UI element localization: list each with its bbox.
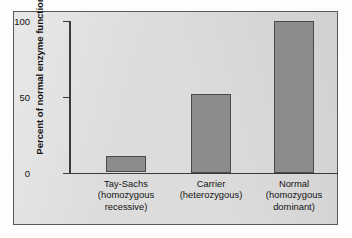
x-label-normal-line1: Normal xyxy=(238,178,350,189)
y-tick-label-0: 0 xyxy=(0,168,30,179)
bar-normal xyxy=(274,21,314,173)
x-label-normal-line3: dominant) xyxy=(238,201,350,212)
x-label-normal: Normal (homozygous dominant) xyxy=(238,178,350,212)
chart-panel: Percent of normal enzyme function 100 50… xyxy=(13,11,338,225)
bar-tay-sachs xyxy=(106,156,146,173)
figure: Percent of normal enzyme function 100 50… xyxy=(0,0,352,238)
x-label-normal-line2: (homozygous xyxy=(238,189,350,200)
y-tick-mark-50 xyxy=(63,97,70,99)
y-tick-label-100: 100 xyxy=(0,16,30,27)
x-axis-line xyxy=(69,173,338,175)
y-tick-mark-100 xyxy=(63,21,70,23)
y-tick-mark-0 xyxy=(63,173,70,175)
y-axis-title: Percent of normal enzyme function xyxy=(34,0,45,161)
x-label-tay-sachs-line3: recessive) xyxy=(70,201,182,212)
bar-carrier xyxy=(191,94,231,173)
y-tick-label-50: 50 xyxy=(0,92,30,103)
